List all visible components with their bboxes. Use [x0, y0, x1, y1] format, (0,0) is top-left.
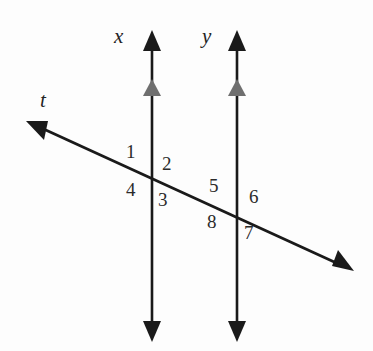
angle-label-5: 5	[209, 176, 219, 195]
line-label-t: t	[40, 90, 46, 111]
geometry-figure: x y t 1 2 4 3 5 6 8 7	[0, 0, 373, 351]
angle-label-6: 6	[249, 187, 259, 206]
angle-label-4: 4	[126, 180, 136, 199]
line-y-arrowhead-down	[228, 321, 246, 342]
line-x	[143, 30, 161, 342]
angle-label-8: 8	[207, 212, 217, 231]
line-t-transversal	[26, 121, 354, 271]
line-t-shaft	[37, 126, 343, 266]
angle-label-2: 2	[162, 154, 172, 173]
line-y-parallel-mark-icon	[228, 79, 246, 96]
angle-label-1: 1	[126, 142, 136, 161]
line-y	[228, 30, 246, 342]
line-t-arrowhead-lower-right	[332, 250, 354, 271]
line-label-y: y	[202, 26, 211, 47]
line-t-arrowhead-upper-left	[26, 121, 48, 140]
line-x-arrowhead-up	[143, 30, 161, 51]
line-y-arrowhead-up	[228, 30, 246, 51]
angle-label-7: 7	[244, 223, 254, 242]
line-x-arrowhead-down	[143, 321, 161, 342]
line-label-x: x	[114, 26, 123, 47]
geometry-canvas	[0, 0, 373, 351]
line-x-parallel-mark-icon	[143, 79, 161, 96]
angle-label-3: 3	[158, 190, 168, 209]
